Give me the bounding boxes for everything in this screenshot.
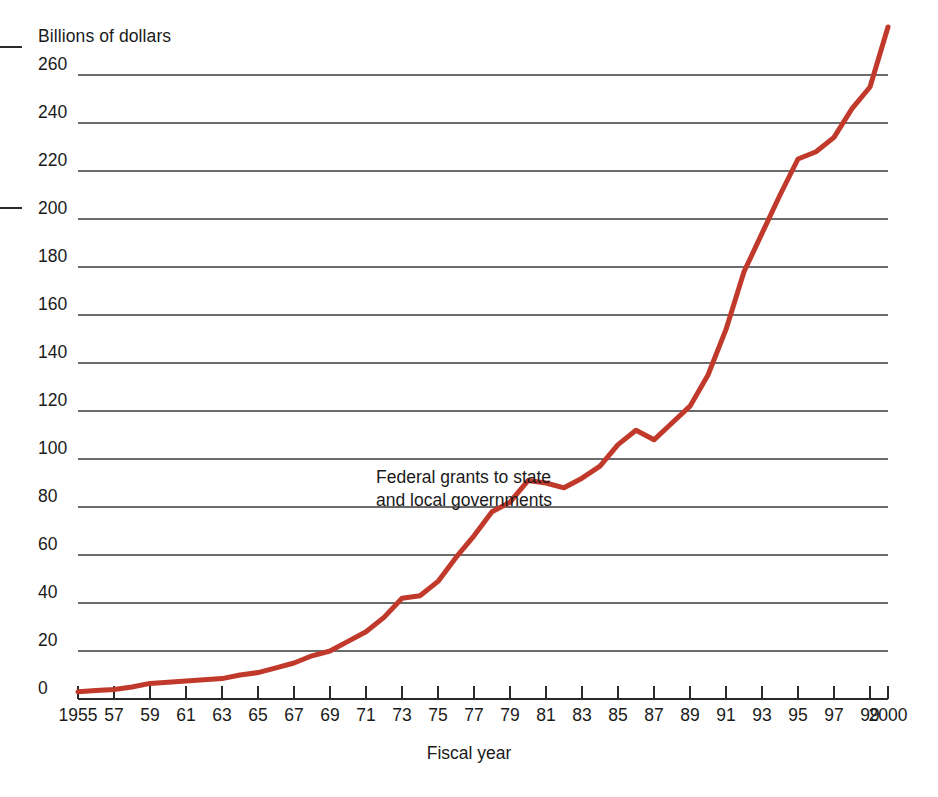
y-axis-tick-label: 20: [38, 630, 57, 651]
y-axis-tick-label: 80: [38, 486, 57, 507]
y-axis-tick-label: 240: [38, 102, 67, 123]
x-axis-tick-label: 2000: [860, 705, 916, 726]
x-axis-title: Fiscal year: [0, 743, 938, 764]
series-annotation: Federal grants to state and local govern…: [376, 466, 552, 512]
chart-figure: Billions of dollars 02040608010012014016…: [0, 0, 938, 797]
y-axis-tick-label: 180: [38, 246, 67, 267]
y-axis-tick-label: 260: [38, 54, 67, 75]
y-axis-tick-label: 200: [38, 198, 67, 219]
plot-area: [0, 0, 938, 797]
y-axis-tick-label: 120: [38, 390, 67, 411]
y-axis-tick-label: 0: [38, 678, 48, 699]
gridlines: [78, 75, 888, 651]
x-axis-ticks: [78, 686, 888, 699]
annotation-line-2: and local governments: [376, 489, 552, 512]
annotation-line-1: Federal grants to state: [376, 466, 552, 489]
y-axis-tick-label: 60: [38, 534, 57, 555]
y-axis-tick-label: 220: [38, 150, 67, 171]
y-axis-tick-label: 40: [38, 582, 57, 603]
y-axis-tick-label: 140: [38, 342, 67, 363]
data-series-line: [78, 27, 888, 692]
y-axis-tick-label: 100: [38, 438, 67, 459]
y-axis-tick-label: 160: [38, 294, 67, 315]
